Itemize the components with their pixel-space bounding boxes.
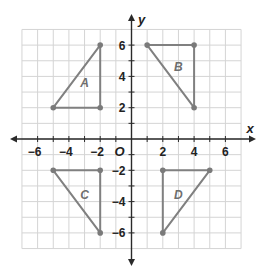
x-tick-label: −4 [59, 145, 73, 159]
triangle-label: A [79, 76, 89, 90]
y-tick-label: 2 [119, 101, 126, 115]
y-tick-label: 4 [119, 70, 126, 84]
vertex-point [97, 42, 103, 48]
vertex-point [191, 105, 197, 111]
x-tick-label: 2 [159, 145, 166, 159]
x-tick-label: −2 [90, 145, 104, 159]
x-axis-right-arrow-icon [249, 136, 256, 143]
y-axis-label: y [137, 12, 146, 27]
vertex-point [50, 105, 56, 111]
x-tick-label: −6 [28, 145, 42, 159]
vertex-point [160, 230, 166, 236]
y-tick-label: −6 [112, 226, 126, 240]
triangle-label: D [174, 188, 183, 202]
y-tick-label: −2 [112, 164, 126, 178]
vertex-point [97, 230, 103, 236]
origin-label: O [114, 144, 124, 159]
coordinate-plane: ABCD −6−4−2246642−2−4−6Oxy [0, 0, 266, 278]
x-tick-label: 6 [222, 145, 229, 159]
axis-labels: −6−4−2246642−2−4−6Oxy [28, 12, 255, 240]
triangle-label: B [174, 60, 183, 74]
vertex-point [97, 105, 103, 111]
vertex-point [207, 168, 213, 174]
triangle-label: C [80, 188, 89, 202]
x-tick-label: 4 [191, 145, 198, 159]
x-axis-left-arrow-icon [10, 136, 17, 143]
x-axis-label: x [245, 121, 254, 136]
vertex-point [50, 168, 56, 174]
axes [10, 14, 256, 266]
y-axis-bottom-arrow-icon [128, 259, 135, 266]
y-axis-top-arrow-icon [128, 14, 135, 21]
vertex-point [144, 42, 150, 48]
y-tick-label: 6 [119, 39, 126, 53]
vertex-point [160, 168, 166, 174]
vertex-point [97, 168, 103, 174]
vertex-point [191, 42, 197, 48]
y-tick-label: −4 [112, 195, 126, 209]
